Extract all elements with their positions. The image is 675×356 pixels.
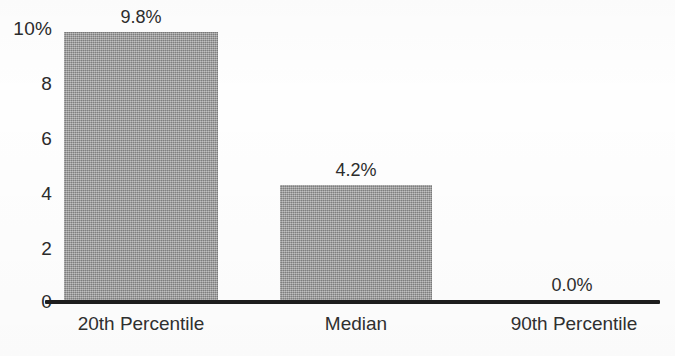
category-label-median: Median [276,313,436,335]
x-axis-baseline [45,300,660,304]
y-axis-tick-4: 4 [0,184,52,203]
category-label-90th-percentile: 90th Percentile [488,313,660,335]
y-axis-tick-8: 8 [0,74,52,93]
bar-20th-percentile [64,32,218,300]
value-label-90th-percentile: 0.0% [496,276,648,294]
category-label-20th-percentile: 20th Percentile [54,313,228,335]
plot-area: 10% 8 6 4 2 0 9.8% 4.2% 0.0% 20th Percen… [0,0,675,356]
value-label-median: 4.2% [280,161,432,179]
y-axis-tick-2: 2 [0,239,52,258]
y-axis-tick-6: 6 [0,129,52,148]
bar-median [280,185,432,300]
bar-chart: 10% 8 6 4 2 0 9.8% 4.2% 0.0% 20th Percen… [0,0,675,356]
y-axis-tick-10: 10% [0,19,52,38]
value-label-20th-percentile: 9.8% [64,8,218,26]
